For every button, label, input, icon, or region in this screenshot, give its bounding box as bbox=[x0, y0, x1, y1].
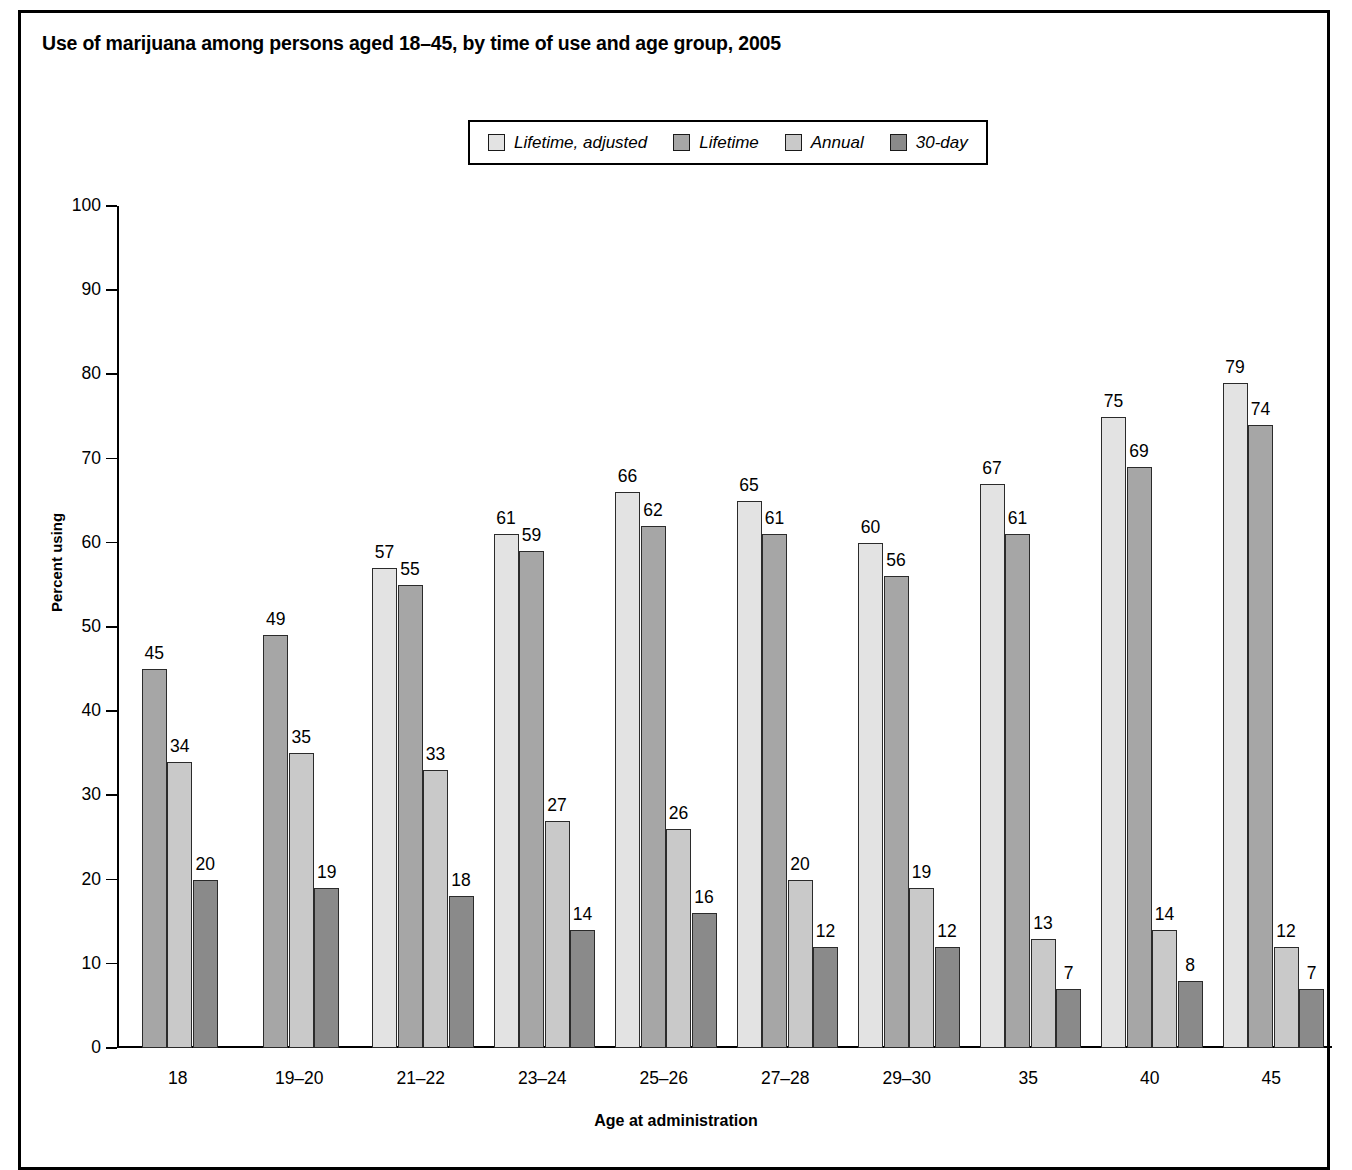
bar[interactable] bbox=[570, 930, 595, 1048]
bar[interactable] bbox=[289, 753, 314, 1048]
bar[interactable] bbox=[1101, 417, 1126, 1049]
bar[interactable] bbox=[1248, 425, 1273, 1048]
bar[interactable] bbox=[423, 770, 448, 1048]
x-axis-category-label: 29–30 bbox=[846, 1068, 968, 1089]
y-axis-tick bbox=[106, 1047, 117, 1049]
bar[interactable] bbox=[1178, 981, 1203, 1048]
bar[interactable] bbox=[935, 947, 960, 1048]
bar-value-label: 33 bbox=[414, 744, 457, 765]
y-axis-title: Percent using bbox=[48, 513, 65, 612]
bar-value-label: 18 bbox=[440, 870, 483, 891]
y-axis-tick bbox=[106, 373, 117, 375]
bar-value-label: 61 bbox=[753, 508, 796, 529]
bar[interactable] bbox=[1031, 939, 1056, 1048]
bar[interactable] bbox=[372, 568, 397, 1048]
bar-value-label: 65 bbox=[728, 475, 771, 496]
bar[interactable] bbox=[788, 880, 813, 1048]
y-axis-tick bbox=[106, 458, 117, 460]
legend-item[interactable]: Lifetime, adjusted bbox=[488, 133, 647, 153]
bar-value-label: 66 bbox=[606, 466, 649, 487]
bar[interactable] bbox=[762, 534, 787, 1048]
bar-value-label: 14 bbox=[561, 904, 604, 925]
legend-item[interactable]: Lifetime bbox=[673, 133, 759, 153]
bar[interactable] bbox=[398, 585, 423, 1048]
bar[interactable] bbox=[813, 947, 838, 1048]
bar-value-label: 45 bbox=[133, 643, 176, 664]
bar-value-label: 61 bbox=[996, 508, 1039, 529]
bar[interactable] bbox=[980, 484, 1005, 1048]
y-axis-tick-label: 100 bbox=[43, 195, 101, 216]
y-axis-tick-label: 10 bbox=[43, 953, 101, 974]
legend-item-label: 30-day bbox=[916, 133, 968, 153]
bar[interactable] bbox=[1299, 989, 1324, 1048]
bar-value-label: 34 bbox=[158, 736, 201, 757]
bar[interactable] bbox=[263, 635, 288, 1048]
legend-swatch-icon bbox=[890, 134, 907, 151]
bar[interactable] bbox=[858, 543, 883, 1048]
bar-value-label: 20 bbox=[779, 854, 822, 875]
x-axis-category-label: 23–24 bbox=[482, 1068, 604, 1089]
bar[interactable] bbox=[666, 829, 691, 1048]
bar-value-label: 55 bbox=[389, 559, 432, 580]
y-axis-tick bbox=[106, 289, 117, 291]
legend-item-label: Lifetime, adjusted bbox=[514, 133, 647, 153]
bar[interactable] bbox=[142, 669, 167, 1048]
bar-value-label: 75 bbox=[1092, 391, 1135, 412]
bar[interactable] bbox=[314, 888, 339, 1048]
bar[interactable] bbox=[909, 888, 934, 1048]
bar[interactable] bbox=[615, 492, 640, 1048]
legend-swatch-icon bbox=[673, 134, 690, 151]
bar[interactable] bbox=[494, 534, 519, 1048]
x-axis-category-label: 45 bbox=[1211, 1068, 1333, 1089]
bar[interactable] bbox=[193, 880, 218, 1048]
bar[interactable] bbox=[692, 913, 717, 1048]
bar[interactable] bbox=[1152, 930, 1177, 1048]
bar[interactable] bbox=[1223, 383, 1248, 1048]
y-axis-tick-label: 70 bbox=[43, 448, 101, 469]
legend-item-label: Annual bbox=[811, 133, 864, 153]
bar-value-label: 19 bbox=[900, 862, 943, 883]
bar-value-label: 12 bbox=[926, 921, 969, 942]
bar-value-label: 35 bbox=[280, 727, 323, 748]
legend-item[interactable]: 30-day bbox=[890, 133, 968, 153]
bar[interactable] bbox=[545, 821, 570, 1048]
x-axis-category-label: 19–20 bbox=[239, 1068, 361, 1089]
x-axis-title: Age at administration bbox=[0, 1112, 1352, 1130]
bar[interactable] bbox=[1056, 989, 1081, 1048]
y-axis-tick bbox=[106, 626, 117, 628]
bar[interactable] bbox=[1127, 467, 1152, 1048]
y-axis-tick-label: 40 bbox=[43, 700, 101, 721]
bar-value-label: 13 bbox=[1022, 913, 1065, 934]
x-axis-category-label: 25–26 bbox=[603, 1068, 725, 1089]
bar-value-label: 20 bbox=[184, 854, 227, 875]
bar[interactable] bbox=[1005, 534, 1030, 1048]
x-axis-category-label: 18 bbox=[117, 1068, 239, 1089]
bar[interactable] bbox=[167, 762, 192, 1048]
bar-value-label: 79 bbox=[1214, 357, 1257, 378]
x-axis-category-label: 21–22 bbox=[360, 1068, 482, 1089]
bar-value-label: 67 bbox=[971, 458, 1014, 479]
bar[interactable] bbox=[641, 526, 666, 1048]
legend-item[interactable]: Annual bbox=[785, 133, 864, 153]
y-axis-tick bbox=[106, 963, 117, 965]
bar-value-label: 7 bbox=[1047, 963, 1090, 984]
bar-value-label: 69 bbox=[1118, 441, 1161, 462]
y-axis-tick-label: 90 bbox=[43, 279, 101, 300]
bar-value-label: 74 bbox=[1239, 399, 1282, 420]
legend-item-label: Lifetime bbox=[699, 133, 759, 153]
bar-value-label: 16 bbox=[683, 887, 726, 908]
bar-value-label: 59 bbox=[510, 525, 553, 546]
y-axis-tick bbox=[106, 542, 117, 544]
y-axis-tick-label: 20 bbox=[43, 869, 101, 890]
plot-area: 0102030405060708090100 45342049351957553… bbox=[117, 206, 1332, 1048]
bar[interactable] bbox=[884, 576, 909, 1048]
bar-value-label: 27 bbox=[536, 795, 579, 816]
y-axis-tick-label: 0 bbox=[43, 1037, 101, 1058]
bar-value-label: 8 bbox=[1169, 955, 1212, 976]
legend-swatch-icon bbox=[785, 134, 802, 151]
y-axis-tick bbox=[106, 794, 117, 796]
bar[interactable] bbox=[449, 896, 474, 1048]
bar[interactable] bbox=[737, 501, 762, 1048]
y-axis-tick-label: 50 bbox=[43, 616, 101, 637]
